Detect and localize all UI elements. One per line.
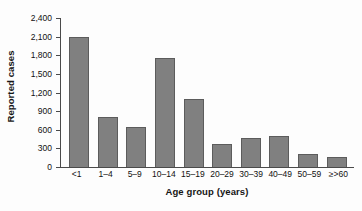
bar-chart-figure: Reported cases 03006009001,2001,5001,800… [0,0,362,211]
x-axis-line [60,167,354,168]
bar-slot [151,18,180,167]
bars-layer [61,18,354,167]
x-axis-tick-label: <1 [62,169,91,182]
y-axis-tick-mark [56,37,60,38]
bar[interactable] [327,157,347,167]
y-axis-tick-mark [56,93,60,94]
bar-slot [265,18,294,167]
bar[interactable] [126,127,146,167]
y-axis-tick-label: 1,500 [31,69,52,79]
y-axis-tick-label: 0 [47,162,52,172]
y-axis-tick-label: 900 [38,106,52,116]
y-axis-tick-label: 300 [38,143,52,153]
y-axis-tick-mark [56,130,60,131]
bar[interactable] [184,99,204,167]
x-axis-title: Age group (years) [60,186,354,197]
bar[interactable] [241,138,261,167]
bar-slot [179,18,208,167]
x-axis-tick-label: 10–14 [149,169,178,182]
bar[interactable] [212,144,232,167]
x-axis-tick-label: 20–29 [207,169,236,182]
y-axis-tick-mark [56,18,60,19]
y-axis-tick-mark [56,148,60,149]
y-axis-title-label: Reported cases [5,50,16,122]
bar[interactable] [155,58,175,167]
x-axis-tick-label: 15–19 [178,169,207,182]
x-axis-tick-label: 50–59 [295,169,324,182]
bar-slot [294,18,323,167]
y-axis-tick-label: 600 [38,125,52,135]
bar-slot [122,18,151,167]
plot-area [60,18,354,167]
y-axis-tick-label: 1,800 [31,50,52,60]
bar-slot [208,18,237,167]
x-axis-tick-label: 40–49 [266,169,295,182]
y-axis-tick-mark [56,167,60,168]
bar-slot [237,18,266,167]
y-axis-title: Reported cases [0,0,20,172]
bar-slot [65,18,94,167]
y-axis-tick-label-group: 03006009001,2001,5001,8002,1002,400 [20,0,54,172]
x-axis-tick-label-group: <11–45–910–1415–1920–2930–3940–4950–59≥>… [61,169,354,182]
bar[interactable] [69,37,89,167]
bar[interactable] [269,136,289,167]
x-axis-tick-label: ≥>60 [324,169,353,182]
y-axis-tick-label: 2,400 [31,13,52,23]
bar-slot [322,18,351,167]
x-axis-tick-label: 1–4 [91,169,120,182]
bar[interactable] [98,117,118,167]
bar-slot [94,18,123,167]
y-axis-tick-mark [56,74,60,75]
y-axis-tick-mark [56,55,60,56]
y-axis-tick-mark [56,111,60,112]
bar[interactable] [298,154,318,167]
y-axis-tick-label: 2,100 [31,32,52,42]
y-axis-tick-label: 1,200 [31,88,52,98]
x-axis-tick-label: 30–39 [237,169,266,182]
x-axis-tick-label: 5–9 [120,169,149,182]
